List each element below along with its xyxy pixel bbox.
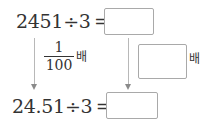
top-equation: 2451÷3 = xyxy=(16,10,110,32)
fraction-denominator: 100 xyxy=(44,58,74,72)
fraction-one-hundredth: 1 100 xyxy=(44,40,74,72)
left-arrow-down-icon xyxy=(31,84,37,90)
right-multiplier-box[interactable] xyxy=(138,44,187,79)
fraction-numerator: 1 xyxy=(44,40,74,54)
right-times-label: 배 xyxy=(189,52,200,66)
right-arrow-down-icon xyxy=(125,84,131,90)
top-answer-box[interactable] xyxy=(104,8,154,35)
right-arrow-line xyxy=(128,38,129,85)
bottom-equation: 24.51÷3 = xyxy=(12,95,111,117)
left-arrow-line xyxy=(34,38,35,85)
bottom-answer-box[interactable] xyxy=(106,92,158,119)
left-times-label: 배 xyxy=(76,50,87,64)
